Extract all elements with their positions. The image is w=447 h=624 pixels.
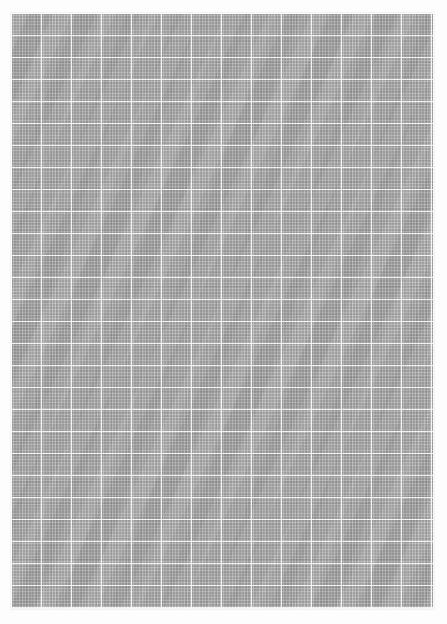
major-horizontal-rules-layer xyxy=(11,13,434,609)
mottle-texture-layer xyxy=(11,13,434,609)
minor-grid-layer xyxy=(11,13,434,609)
sheet-frame-border xyxy=(11,13,434,609)
major-vertical-rules-layer xyxy=(11,13,434,609)
fabric-weave-noise-layer xyxy=(11,13,434,609)
grid-paper-sheet xyxy=(11,13,434,609)
page-canvas xyxy=(0,0,447,624)
